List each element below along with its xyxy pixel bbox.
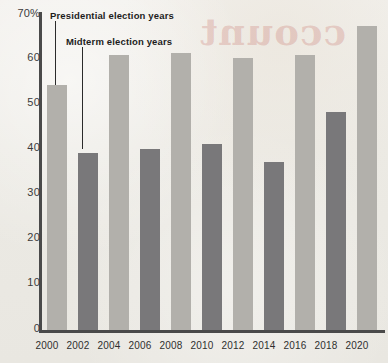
bar-2012[interactable] <box>233 58 253 331</box>
y-tick-label-50: 50 <box>6 96 40 108</box>
legend-label-midterm: Midterm election years <box>66 36 172 47</box>
bar-2016[interactable] <box>295 55 315 331</box>
bar-2014[interactable] <box>264 162 284 331</box>
bar-2008[interactable] <box>171 53 191 331</box>
leader-line-presidential <box>55 21 56 85</box>
y-tick-label-20: 20 <box>6 231 40 243</box>
bar-2018[interactable] <box>326 112 346 331</box>
plot-area <box>42 12 385 331</box>
y-tick-label-30: 30 <box>6 186 40 198</box>
bar-2004[interactable] <box>109 55 129 331</box>
leader-line-midterm <box>82 47 83 149</box>
y-tick-label-70: 70% <box>6 7 40 19</box>
y-tick-label-10: 10 <box>6 276 40 288</box>
y-tick-label-0: 0 <box>6 322 40 334</box>
y-tick-label-40: 40 <box>6 141 40 153</box>
bar-2006[interactable] <box>140 149 160 331</box>
bar-2000[interactable] <box>47 85 67 331</box>
x-tick-label-2020: 2020 <box>339 340 375 351</box>
bar-2020[interactable] <box>357 26 377 331</box>
bar-2002[interactable] <box>78 153 98 331</box>
x-axis-line <box>39 330 385 333</box>
y-tick-label-60: 60 <box>6 51 40 63</box>
legend-label-presidential: Presidential election years <box>50 10 174 21</box>
bar-2010[interactable] <box>202 144 222 331</box>
bar-chart: 70% 60 50 40 30 20 10 0 2000 2002 2004 2… <box>0 0 388 363</box>
